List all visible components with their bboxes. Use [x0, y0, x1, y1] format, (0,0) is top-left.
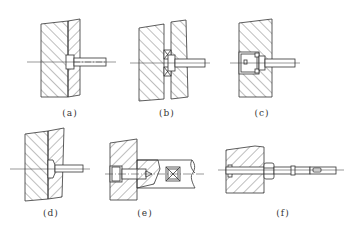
panel-e — [105, 139, 205, 200]
panel-a — [27, 19, 116, 97]
mechanical-diagram — [0, 0, 358, 232]
panel-f — [218, 146, 344, 193]
panel-label-c: (c) — [254, 108, 269, 118]
panel-label-b: (b) — [159, 108, 175, 118]
panel-label-a: (a) — [62, 108, 77, 118]
panel-c — [230, 19, 300, 97]
panel-d — [10, 128, 90, 201]
panel-b — [130, 20, 210, 101]
panel-label-d: (d) — [43, 208, 59, 218]
panel-label-f: (f) — [276, 208, 289, 218]
panel-label-e: (e) — [137, 208, 152, 218]
